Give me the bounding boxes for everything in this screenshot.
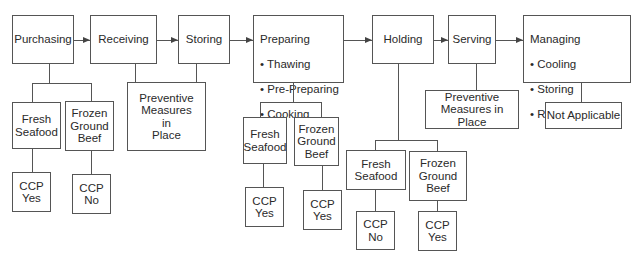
connector (263, 164, 264, 187)
connector (260, 102, 322, 103)
connector (375, 140, 376, 150)
bullet-text: Pre-Preparing (267, 83, 339, 95)
step-serving: Serving (448, 15, 496, 64)
connector (398, 64, 399, 140)
box-label: Fresh Seafood (15, 113, 58, 138)
step-managing: Managing • Cooling • Storing • Re-heatin… (523, 15, 631, 83)
box-label: CCP No (79, 182, 103, 207)
preparing-fresh-seafood: Fresh Seafood (243, 117, 287, 164)
connector (437, 140, 438, 151)
bullet-text: Storing (537, 83, 573, 95)
step-label: Purchasing (14, 33, 72, 46)
bullet-icon: • (530, 83, 534, 95)
box-label: Preventive Measures in Place (139, 92, 193, 142)
box-label: Frozen Ground Beef (70, 107, 108, 145)
box-label: Preventive Measures in Place (426, 91, 518, 129)
bullet-icon: • (530, 58, 534, 70)
bullet-icon: • (260, 58, 264, 70)
purchasing-fresh-seafood: Fresh Seafood (12, 102, 61, 149)
holding-fresh-seafood: Fresh Seafood (346, 150, 406, 190)
step-holding: Holding (372, 15, 434, 64)
box-label: Fresh Seafood (355, 158, 398, 183)
box-label: Frozen Ground Beef (419, 157, 457, 195)
bullet-item: • Storing (530, 83, 594, 96)
purchasing-frozen-ccp: CCP No (72, 174, 111, 214)
step-label: Serving (453, 33, 492, 46)
connector (375, 140, 438, 141)
arrow-serving-managing (496, 40, 523, 41)
bullet-item: • Thawing (260, 58, 339, 71)
bullet-item: • Pre-Preparing (260, 83, 339, 96)
box-label: Frozen Ground Beef (297, 123, 335, 161)
connector (322, 166, 323, 190)
connector (135, 64, 136, 82)
purchasing-frozen-ground-beef: Frozen Ground Beef (65, 101, 114, 151)
connector (260, 102, 261, 117)
bullet-item: • Cooling (530, 58, 594, 71)
connector (196, 64, 197, 82)
step-receiving: Receiving (90, 15, 157, 64)
step-label: Storing (186, 33, 222, 46)
connector (49, 64, 50, 83)
bullet-text: Thawing (267, 58, 310, 70)
arrow-purchasing-receiving (74, 40, 90, 41)
arrow-holding-serving (434, 40, 448, 41)
arrow-receiving-storing (157, 40, 178, 41)
box-label: CCP Yes (252, 195, 276, 220)
receiving-storing-preventive-measures: Preventive Measures in Place (127, 82, 206, 151)
box-label: CCP Yes (425, 219, 449, 244)
box-label: Fresh Seafood (244, 128, 287, 153)
connector (91, 83, 92, 101)
connector (293, 83, 294, 102)
step-label: Holding (384, 33, 423, 46)
purchasing-fresh-ccp: CCP Yes (12, 172, 51, 212)
connector (32, 83, 92, 84)
holding-frozen-ccp: CCP Yes (418, 211, 457, 251)
connector (91, 151, 92, 174)
preparing-frozen-ground-beef: Frozen Ground Beef (294, 117, 339, 166)
bullet-icon: • (530, 108, 534, 120)
box-label: CCP Yes (19, 180, 43, 205)
step-purchasing: Purchasing (12, 15, 74, 64)
bullet-text: Cooling (537, 58, 576, 70)
box-label: CCP No (363, 218, 387, 243)
preparing-fresh-ccp: CCP Yes (245, 187, 284, 227)
connector (476, 64, 477, 90)
serving-preventive-measures: Preventive Measures in Place (425, 90, 519, 129)
preparing-frozen-ccp: CCP Yes (303, 190, 342, 230)
step-label: Receiving (98, 33, 149, 46)
connector (32, 83, 33, 102)
holding-fresh-ccp: CCP No (356, 211, 395, 250)
connector (32, 149, 33, 172)
managing-not-applicable: Not Applicable (545, 102, 622, 129)
arrow-storing-preparing (230, 40, 253, 41)
connector (321, 102, 322, 117)
connector (375, 190, 376, 211)
arrow-preparing-holding (344, 40, 372, 41)
connector (437, 201, 438, 211)
holding-frozen-ground-beef: Frozen Ground Beef (409, 151, 467, 201)
box-label: Not Applicable (547, 109, 621, 122)
connector (581, 83, 582, 102)
box-label: CCP Yes (310, 198, 334, 223)
step-storing: Storing (178, 15, 230, 64)
bullet-icon: • (260, 83, 264, 95)
step-preparing: Preparing • Thawing • Pre-Preparing • Co… (253, 15, 344, 83)
step-label: Managing (530, 33, 594, 46)
step-label: Preparing (260, 33, 339, 46)
